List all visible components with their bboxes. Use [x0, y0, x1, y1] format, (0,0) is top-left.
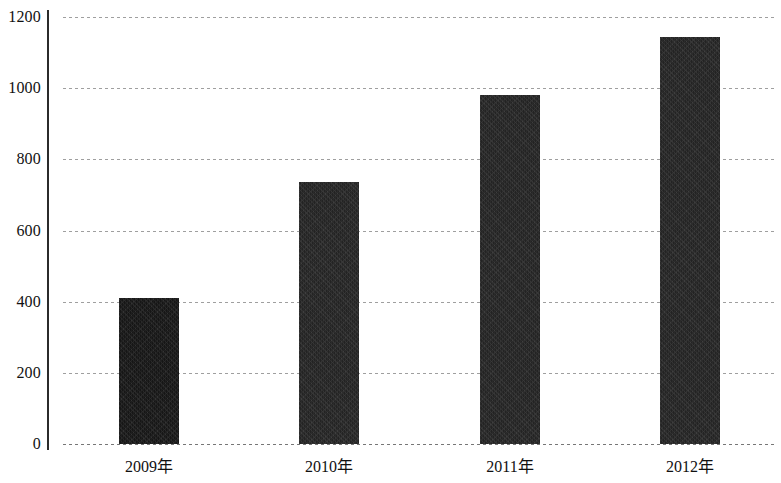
bar-2011年 — [480, 95, 540, 444]
bar-2009年 — [119, 298, 179, 444]
y-axis-label-400: 400 — [0, 294, 41, 310]
x-axis-label-2009年: 2009年 — [89, 458, 209, 476]
bar-2010年 — [299, 182, 359, 444]
gridline-0 — [63, 444, 775, 445]
y-axis-label-0: 0 — [0, 436, 41, 452]
x-axis-label-2011年: 2011年 — [450, 458, 570, 476]
y-axis-label-1000: 1000 — [0, 80, 41, 96]
x-axis-label-2012年: 2012年 — [630, 458, 750, 476]
bar-chart: 020040060080010001200 2009年2010年2011年201… — [0, 0, 781, 483]
y-axis-label-800: 800 — [0, 151, 41, 167]
y-axis-label-1200: 1200 — [0, 9, 41, 25]
bar-2012年 — [660, 37, 720, 444]
y-axis-line — [47, 10, 49, 450]
x-axis-label-2010年: 2010年 — [269, 458, 389, 476]
y-axis-label-600: 600 — [0, 223, 41, 239]
plot-area — [63, 17, 775, 444]
y-axis-label-200: 200 — [0, 365, 41, 381]
